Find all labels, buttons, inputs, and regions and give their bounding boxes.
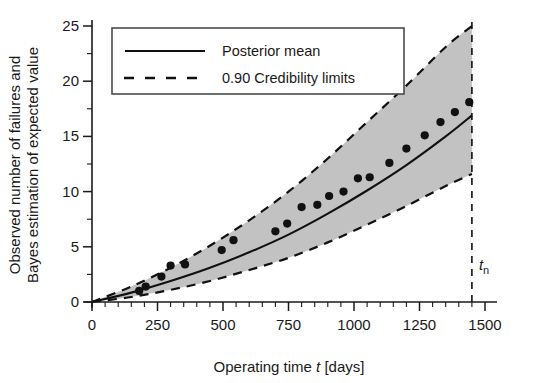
- data-point: [167, 261, 175, 269]
- legend-label-credibility-limits: 0.90 Credibility limits: [222, 70, 355, 86]
- data-point: [271, 227, 279, 235]
- chart-legend: Posterior mean 0.90 Credibility limits: [112, 28, 404, 94]
- y-axis-title-line2: Bayes estimation of expected value: [24, 47, 41, 283]
- failures-credibility-chart: tn 0250500750100012501500 0510152025 Ope…: [0, 0, 540, 383]
- data-point: [451, 108, 459, 116]
- data-point: [366, 173, 374, 181]
- data-point: [421, 131, 429, 139]
- data-point: [354, 174, 362, 182]
- chart-figure: tn 0250500750100012501500 0510152025 Ope…: [0, 0, 540, 383]
- svg-text:Operating time t [days]: Operating time t [days]: [214, 358, 365, 375]
- data-point: [402, 144, 410, 152]
- y-tick-label: 10: [62, 183, 79, 200]
- y-axis-title-line1: Observed number of failures and: [6, 56, 23, 274]
- x-tick-label: 1250: [403, 316, 436, 333]
- data-point: [436, 118, 444, 126]
- y-tick-label: 15: [62, 127, 79, 144]
- x-tick-label: 750: [276, 316, 301, 333]
- y-tick-label: 5: [71, 238, 79, 255]
- data-point: [229, 236, 237, 244]
- legend-label-posterior-mean: Posterior mean: [222, 43, 320, 59]
- x-tick-label: 0: [88, 316, 96, 333]
- data-point: [313, 201, 321, 209]
- data-point: [385, 159, 393, 167]
- x-tick-label: 250: [145, 316, 170, 333]
- data-point: [157, 273, 165, 281]
- data-point: [181, 260, 189, 268]
- y-tick-label: 25: [62, 17, 79, 34]
- data-point: [339, 188, 347, 196]
- x-tick-label: 500: [210, 316, 235, 333]
- y-tick-label: 0: [71, 293, 79, 310]
- data-point: [218, 246, 226, 254]
- x-tick-label: 1000: [337, 316, 370, 333]
- data-point: [283, 220, 291, 228]
- data-point: [325, 192, 333, 200]
- x-tick-label: 1500: [468, 316, 501, 333]
- x-axis-title: Operating time t [days]: [214, 358, 365, 375]
- y-tick-label: 20: [62, 72, 79, 89]
- data-point: [298, 203, 306, 211]
- data-point: [142, 282, 150, 290]
- y-axis-title: Observed number of failures and Bayes es…: [6, 47, 41, 283]
